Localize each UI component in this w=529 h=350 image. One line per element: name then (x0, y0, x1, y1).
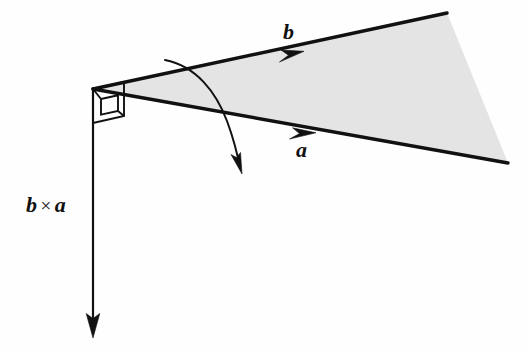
vector-bxa-label: b×a (26, 194, 66, 216)
figure-canvas (0, 0, 529, 350)
vector-b-label: b (283, 21, 294, 43)
vector-cross-product-figure: b a b×a (0, 0, 529, 350)
bxa-operand-left: b (26, 192, 38, 217)
bxa-operand-right: a (55, 192, 67, 217)
bxa-operator: × (38, 195, 55, 216)
vector-a-label: a (296, 139, 307, 161)
